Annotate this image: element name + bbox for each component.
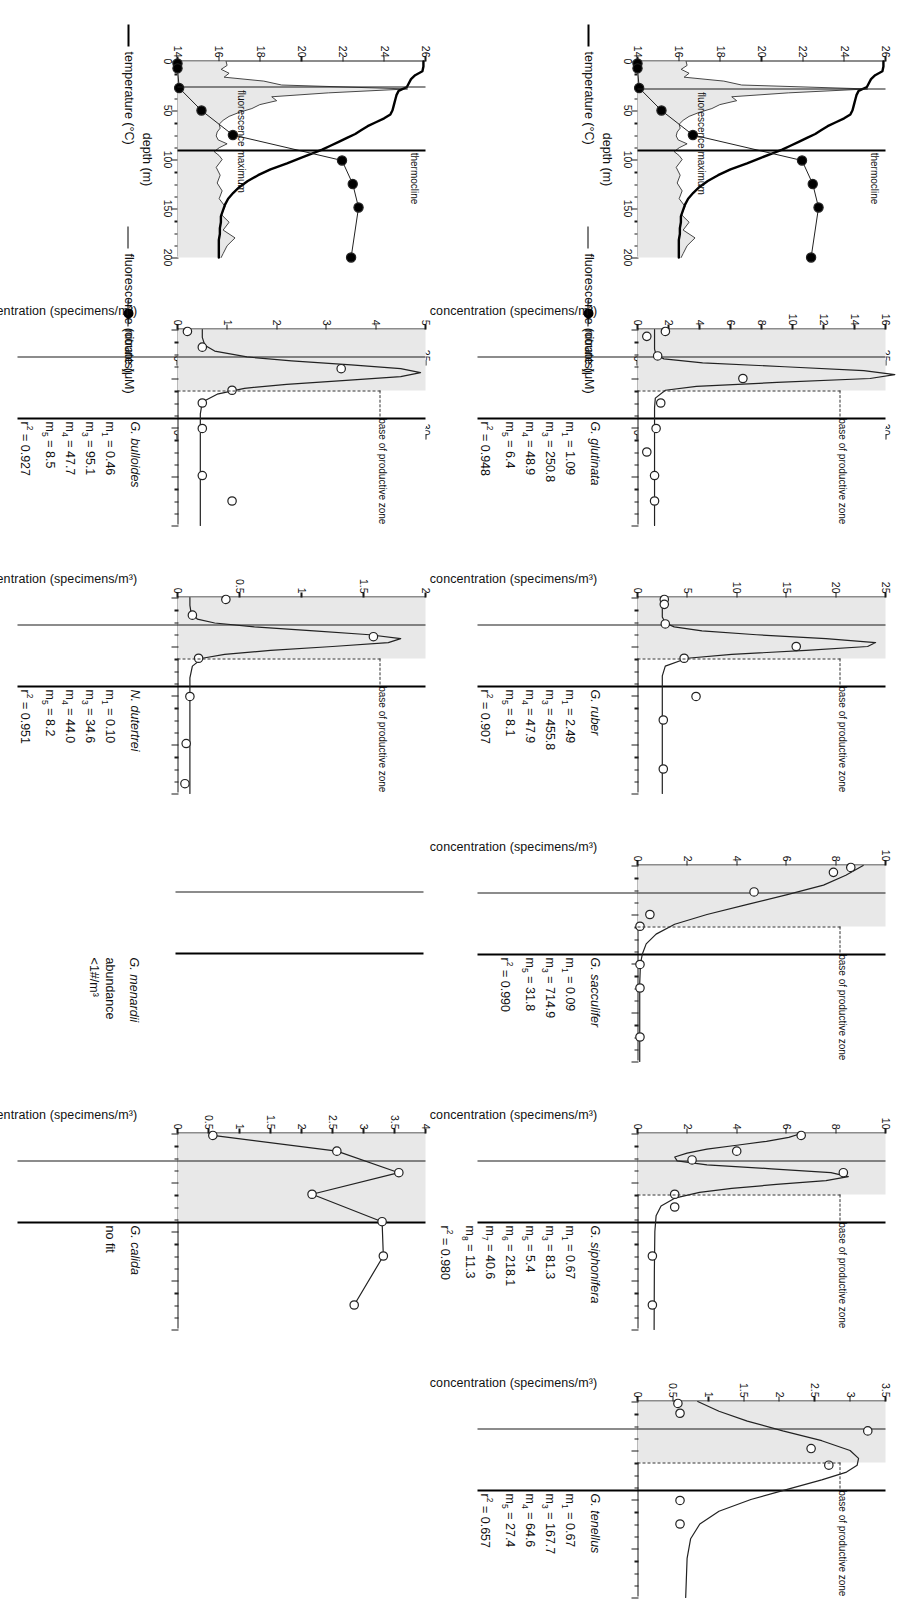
data-point-open (227, 386, 235, 394)
y-axis-label: concentration (specimens/m³) (0, 1107, 177, 1123)
thermocline-label: thermocline (868, 152, 879, 204)
parameter-value: = 48.9 (523, 436, 537, 475)
parameter-name: m8 (463, 1225, 477, 1240)
y-tick-label: 4 (693, 319, 705, 325)
x-tick-label: 0 (161, 58, 173, 64)
legend-temperature: temperature (°C) (581, 24, 595, 144)
parameter-line: m4 = 44.0 (57, 689, 77, 751)
y-tick-label: 16 (672, 45, 684, 57)
y-tick-label: 14 (848, 313, 860, 325)
parameter-line: m3 = 81.3 (537, 1225, 557, 1303)
parameter-line: m4 = 64.6 (517, 1493, 537, 1554)
y-tick-label: 2 (773, 1391, 785, 1397)
y-tick-label: 2 (662, 319, 674, 325)
data-point-open (379, 1251, 387, 1259)
plot-series-layer (177, 597, 425, 793)
y-tick-label: 3.5 (388, 1114, 400, 1129)
parameter-name: m5 (43, 689, 57, 704)
data-point-open (675, 1519, 683, 1527)
parameter-name: m1 (563, 1225, 577, 1240)
parameter-name: m4 (523, 421, 537, 436)
species-annotation: G. ruberm1 = 2.49m3 = 455.8m4 = 47.9m5 =… (477, 689, 601, 750)
parameter-value: = 0.67 (563, 1240, 577, 1279)
parameter-line: m8 = 11.3 (457, 1225, 477, 1303)
parameter-line: m3 = 455.8 (537, 689, 557, 750)
parameter-line: m1 = 0.10 (97, 689, 117, 751)
legend-label: temperature (°C) (581, 51, 595, 144)
parameter-line: m5 = 6.4 (497, 421, 517, 485)
data-point-filled (353, 202, 362, 211)
r-squared-value: = 0.948 (478, 430, 492, 476)
plot-series-layer (637, 597, 885, 793)
y-tick-label: 4 (730, 855, 742, 861)
parameter-name: m3 (543, 1225, 557, 1240)
r-squared-line: r2 = 0.951 (17, 689, 37, 751)
y-tick-label: 12 (817, 313, 829, 325)
data-point-open (670, 1202, 678, 1210)
figure-row-bottom: 14161820222426050100150200depth (m)fluor… (0, 0, 459, 1341)
parameter-line: m1 = 2.49 (557, 689, 577, 750)
y-tick-label: 14 (631, 45, 643, 57)
data-point-open (659, 715, 667, 723)
parameter-line: m1 = 0.09 (557, 957, 577, 1026)
data-point-open (650, 496, 658, 504)
y-tick-label: 5 (681, 587, 693, 593)
fluorescence-max-label: fluorescence maximum (695, 91, 706, 194)
data-point-open (824, 1461, 832, 1469)
parameter-name: m4 (523, 689, 537, 704)
parameter-name: m3 (543, 957, 557, 972)
y-tick-label: 3 (357, 1123, 369, 1129)
parameter-line: m3 = 714.9 (537, 957, 557, 1026)
data-point-open (792, 642, 800, 650)
plot-area: 14161820222426050100150200depth (m)fluor… (637, 60, 885, 256)
parameter-line: m3 = 95.1 (77, 421, 97, 487)
data-point-open (651, 424, 659, 432)
y-tick-label: 2 (270, 319, 282, 325)
parameter-value: = 8.5 (43, 436, 57, 468)
data-point-filled (348, 179, 357, 188)
species-name: G. sacculifer (586, 957, 602, 1026)
data-point-open (656, 398, 664, 406)
fluorescence-line-icon (127, 226, 128, 248)
y-tick-label: 8 (829, 1123, 841, 1129)
panel-n-dutertrei: concentration (specimens/m³)00.511.52bas… (0, 550, 459, 818)
parameter-name: m4 (63, 689, 77, 704)
x-tick-label: 150 (621, 199, 633, 217)
data-point-open (645, 910, 653, 918)
x-axis-label: depth (m) (599, 61, 613, 257)
fluorescence-max-line (637, 88, 885, 89)
data-point-open (635, 960, 643, 968)
y-tick-label: 2.5 (326, 1114, 338, 1129)
parameter-line: m1 = 0.46 (97, 421, 117, 487)
data-point-open (659, 764, 667, 772)
species-name: G. ruber (586, 689, 602, 750)
r-squared-line: r2 = 0.657 (477, 1493, 497, 1554)
temperature-line-icon (127, 24, 129, 46)
data-point-filled (797, 155, 806, 164)
parameter-name: m4 (63, 421, 77, 436)
species-name: G. bulloides (126, 421, 142, 487)
parameter-value: = 5.4 (523, 1240, 537, 1272)
species-name: G. glutinata (586, 421, 602, 485)
parameter-value: = 0.67 (563, 1508, 577, 1547)
y-tick-label: 1.5 (357, 578, 369, 593)
data-point-open (336, 364, 344, 372)
y-tick-label: 5 (419, 319, 431, 325)
figure-row-top: 14161820222426050100150200depth (m)fluor… (460, 0, 919, 1341)
parameter-line: m1 = 0.67 (557, 1225, 577, 1303)
species-name: G. menardii (125, 957, 141, 1022)
data-point-open (806, 1444, 814, 1452)
y-tick-label: 25 (879, 581, 891, 593)
thermocline-line (177, 149, 425, 151)
parameter-line: m5 = 5.4 (517, 1225, 537, 1303)
parameter-name: m5 (503, 421, 517, 436)
species-annotation: G. tenellusm1 = 0.67m3 = 167.7m4 = 64.6m… (477, 1493, 601, 1554)
parameter-name: m1 (563, 957, 577, 972)
data-point-open (650, 471, 658, 479)
parameter-value: = 8.2 (43, 704, 57, 736)
y-tick-label: 0 (631, 587, 643, 593)
parameter-value: = 95.1 (83, 436, 97, 475)
r-squared-line: r2 = 0.990 (497, 957, 517, 1026)
parameter-value: = 250.8 (543, 436, 557, 482)
y-tick-label: 2 (681, 1123, 693, 1129)
